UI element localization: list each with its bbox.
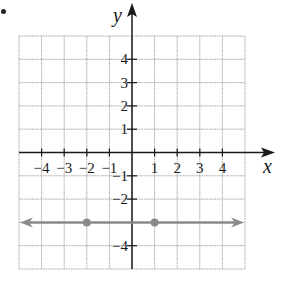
list-bullet — [1, 9, 6, 14]
x-axis-label: x — [262, 155, 272, 177]
y-tick-label: −4 — [112, 238, 128, 254]
y-tick-label: −1 — [112, 168, 128, 184]
x-tick-label: 4 — [219, 160, 227, 176]
axes — [19, 3, 275, 269]
x-tick-label: −2 — [79, 160, 95, 176]
x-tick-label: 3 — [196, 160, 204, 176]
x-tick-label: 1 — [151, 160, 159, 176]
x-tick-label: 2 — [173, 160, 181, 176]
y-tick-label: 4 — [121, 51, 129, 67]
coordinate-graph: −4−3−2−112344321−1−2−4 x y — [0, 0, 281, 284]
y-axis-label: y — [111, 4, 122, 27]
plotted-point — [151, 218, 159, 226]
y-tick-label: 1 — [121, 121, 129, 137]
graph-canvas: −4−3−2−112344321−1−2−4 x y — [0, 0, 281, 284]
y-tick-label: 3 — [121, 75, 129, 91]
y-tick-label: 2 — [121, 98, 129, 114]
y-tick-label: −2 — [112, 191, 128, 207]
plotted-point — [83, 218, 91, 226]
x-tick-label: −4 — [34, 160, 50, 176]
x-tick-label: −3 — [56, 160, 72, 176]
